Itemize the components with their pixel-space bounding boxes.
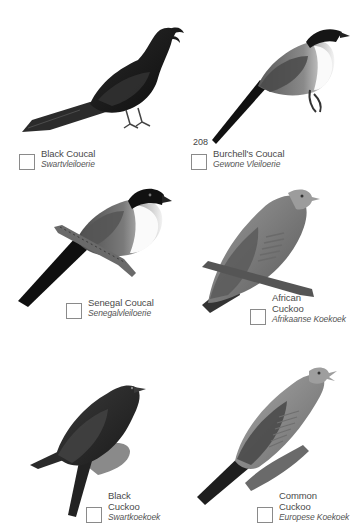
english-name-line-1: African bbox=[272, 292, 346, 303]
species-entry-african-cuckoo: African Cuckoo Afrikaanse Koekoek bbox=[250, 292, 346, 325]
page-number: 208 bbox=[193, 137, 208, 147]
tick-checkbox[interactable] bbox=[250, 309, 266, 325]
english-name-line-2: Cuckoo bbox=[272, 303, 346, 314]
english-name: Black Coucal bbox=[41, 148, 95, 159]
species-entry-black-cuckoo: Black Cuckoo Swartkoekoek bbox=[86, 490, 160, 523]
black-coucal-illustration bbox=[20, 20, 180, 135]
english-name-line-1: Common bbox=[279, 490, 349, 501]
common-cuckoo-illustration bbox=[195, 363, 335, 508]
english-name: Burchell's Coucal bbox=[213, 148, 284, 159]
tick-checkbox[interactable] bbox=[191, 154, 207, 170]
tick-checkbox[interactable] bbox=[86, 507, 102, 523]
species-entry-common-cuckoo: Common Cuckoo Europese Koekoek bbox=[257, 490, 349, 523]
species-entry-senegal-coucal: Senegal Coucal Senegalvleiloerie bbox=[66, 297, 154, 319]
burchells-coucal-illustration bbox=[210, 16, 350, 146]
species-entry-burchells-coucal: Burchell's Coucal Gewone Vleiloerie bbox=[191, 148, 284, 170]
afrikaans-name: Swartvleiloerie bbox=[41, 159, 95, 170]
afrikaans-name: Senegalvleiloerie bbox=[88, 308, 154, 319]
tick-checkbox[interactable] bbox=[66, 303, 82, 319]
english-name-line-1: Black bbox=[108, 490, 160, 501]
species-entry-black-coucal: Black Coucal Swartvleiloerie bbox=[19, 148, 95, 170]
tick-checkbox[interactable] bbox=[257, 507, 273, 523]
english-name: Senegal Coucal bbox=[88, 297, 154, 308]
english-name-line-2: Cuckoo bbox=[279, 501, 349, 512]
afrikaans-name: Gewone Vleiloerie bbox=[213, 159, 284, 170]
senegal-coucal-illustration bbox=[14, 183, 174, 308]
afrikaans-name: Swartkoekoek bbox=[108, 512, 160, 523]
afrikaans-name: Europese Koekoek bbox=[279, 512, 349, 523]
tick-checkbox[interactable] bbox=[19, 154, 35, 170]
english-name-line-2: Cuckoo bbox=[108, 501, 160, 512]
afrikaans-name: Afrikaanse Koekoek bbox=[272, 314, 346, 325]
